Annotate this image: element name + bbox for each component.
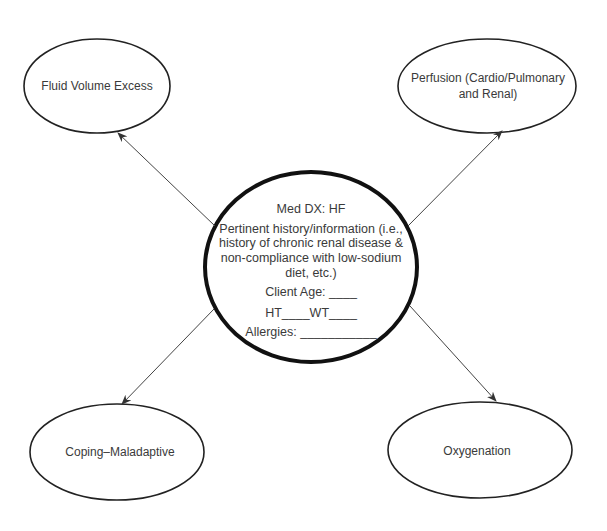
node-label-coping-maladaptive: Coping–Maladaptive <box>65 445 174 460</box>
arrow-to-perfusion <box>408 131 502 226</box>
pertinent-history-line-4: diet, etc.) <box>285 266 336 281</box>
node-label-fluid-volume-excess: Fluid Volume Excess <box>41 79 152 94</box>
pertinent-history-line-3: non-compliance with low-sodium <box>221 251 402 266</box>
medical-diagnosis: Med DX: HF <box>277 202 346 217</box>
node-label-perfusion-line-2: and Renal) <box>411 86 565 102</box>
arrow-to-coping-maladaptive <box>122 309 214 404</box>
node-label-oxygenation: Oxygenation <box>443 444 510 459</box>
height-weight-field: HT____WT____ <box>265 306 357 321</box>
node-label-perfusion-line-1: Perfusion (Cardio/Pulmonary <box>411 70 565 86</box>
arrow-to-oxygenation <box>410 306 496 401</box>
arrow-to-fluid-volume-excess <box>118 133 215 226</box>
node-label-perfusion: Perfusion (Cardio/Pulmonary and Renal) <box>411 70 565 102</box>
client-age-field: Client Age: ____ <box>265 285 357 300</box>
pertinent-history-line-2: history of chronic renal disease & <box>219 236 403 251</box>
pertinent-history-line-1: Pertinent history/information (i.e., <box>219 222 402 237</box>
allergies-field: Allergies: ___________ <box>245 325 376 340</box>
